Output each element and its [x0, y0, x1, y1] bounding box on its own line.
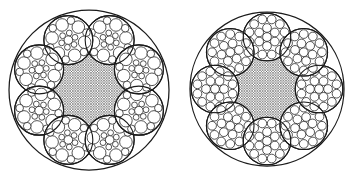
wire	[255, 141, 264, 150]
wire	[41, 72, 47, 78]
wire	[56, 19, 69, 32]
wire	[49, 148, 57, 156]
wire	[242, 57, 251, 66]
wire	[135, 47, 148, 60]
wire	[135, 121, 148, 134]
wire	[48, 98, 61, 111]
wire	[193, 89, 202, 98]
wire	[228, 39, 237, 48]
wire	[302, 113, 311, 122]
wire	[228, 89, 237, 98]
wire	[217, 137, 226, 146]
wire	[143, 107, 149, 113]
wire	[220, 85, 229, 94]
wire	[112, 141, 118, 147]
wire	[290, 106, 299, 115]
wire	[106, 30, 112, 36]
wire	[206, 77, 215, 86]
wire	[121, 148, 129, 156]
wire	[219, 128, 228, 137]
wire	[23, 50, 31, 58]
wire	[68, 49, 81, 62]
wire	[49, 24, 57, 32]
wire	[39, 114, 45, 120]
wire	[66, 30, 72, 36]
wire	[71, 133, 77, 139]
wire	[148, 111, 161, 124]
wire	[315, 57, 324, 66]
wire	[224, 57, 233, 66]
wire	[155, 104, 163, 112]
wire	[284, 112, 293, 121]
wire	[297, 130, 306, 139]
wire	[72, 140, 78, 146]
wire	[290, 32, 299, 41]
wire	[110, 19, 123, 32]
wire	[310, 92, 319, 101]
wire	[132, 102, 138, 108]
wire	[235, 124, 244, 133]
wire	[215, 92, 224, 101]
wire	[208, 48, 217, 57]
wire	[291, 46, 300, 55]
wire	[155, 68, 163, 76]
wire	[39, 60, 45, 66]
wire	[64, 130, 70, 136]
wire	[140, 61, 146, 67]
wire	[228, 80, 237, 89]
wire	[293, 54, 302, 63]
wire	[235, 106, 244, 115]
wire	[148, 57, 161, 70]
wire	[60, 33, 66, 39]
wire	[235, 137, 244, 146]
wire	[297, 89, 306, 98]
wire	[72, 34, 78, 40]
wire	[217, 32, 226, 41]
wire	[263, 24, 272, 33]
wire	[319, 92, 328, 101]
wire	[270, 132, 279, 141]
wire	[315, 39, 324, 48]
wire	[211, 85, 220, 94]
wire	[258, 119, 267, 128]
wire	[270, 28, 279, 37]
wire	[275, 20, 284, 29]
wire	[132, 72, 138, 78]
wire	[267, 119, 276, 128]
wire	[219, 41, 228, 50]
wire	[215, 77, 224, 86]
wire	[306, 85, 315, 94]
wire	[147, 122, 155, 130]
wire	[308, 137, 317, 146]
wire	[324, 85, 333, 94]
wire	[315, 85, 324, 94]
wire	[87, 131, 100, 144]
wire	[299, 30, 308, 39]
wire	[299, 140, 308, 149]
wire	[100, 140, 106, 146]
wire	[255, 37, 264, 46]
wire	[31, 47, 44, 60]
wire	[208, 121, 217, 130]
wire	[117, 69, 130, 82]
wire	[319, 77, 328, 86]
wire	[318, 121, 327, 130]
wire	[226, 140, 235, 149]
wire	[198, 72, 207, 81]
wire-rope-figure	[0, 0, 353, 180]
wire	[284, 57, 293, 66]
wire	[103, 17, 111, 25]
wire	[130, 79, 143, 92]
wire	[60, 141, 66, 147]
wire	[59, 134, 65, 140]
wire	[306, 41, 315, 50]
wire	[35, 88, 48, 101]
wire	[310, 77, 319, 86]
wire	[139, 101, 145, 107]
wire	[198, 97, 207, 106]
wire	[71, 42, 77, 48]
wire	[210, 39, 219, 48]
wire	[147, 50, 155, 58]
wire	[327, 97, 336, 106]
wire	[267, 50, 276, 59]
